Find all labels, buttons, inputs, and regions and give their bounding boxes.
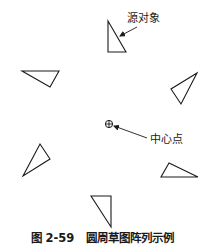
figure-caption: 图 2-59 圆周草图阵列示例	[0, 233, 205, 245]
circular-pattern-diagram: 源对象 中心点 图 2-59 圆周草图阵列示例	[0, 0, 205, 247]
center-leader-arrow	[114, 126, 147, 138]
pattern-triangle-bottom	[91, 196, 111, 227]
center-point-icon	[105, 120, 112, 127]
pattern-triangle-lower-left	[23, 144, 50, 176]
pattern-triangle-lower-right	[161, 163, 198, 177]
center-point-label: 中心点	[150, 134, 183, 145]
figure-title: 圆周草图阵列示例	[86, 231, 174, 245]
diagram-svg	[0, 0, 205, 247]
pattern-triangle-right	[171, 73, 197, 104]
pattern-triangle-left	[22, 71, 59, 87]
source-leader-arrow	[120, 27, 137, 36]
source-object-label: 源对象	[127, 13, 160, 24]
source-triangle	[108, 21, 126, 52]
figure-number: 图 2-59	[31, 231, 75, 245]
